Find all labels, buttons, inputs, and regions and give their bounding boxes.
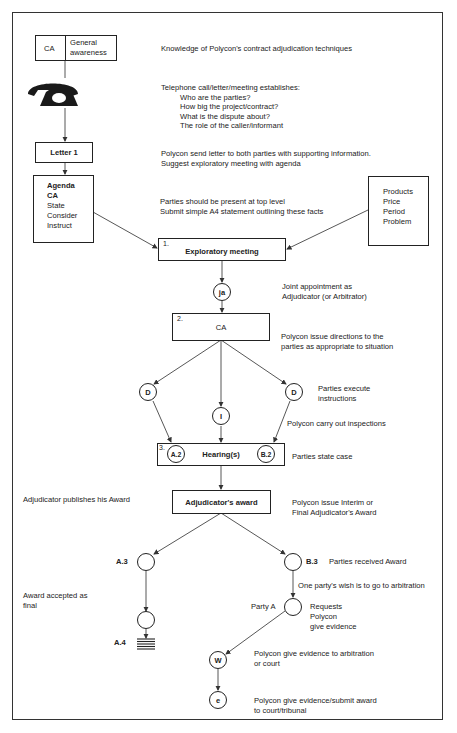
b2-label: B.2	[261, 451, 272, 458]
note-accepted-2: final	[23, 601, 37, 611]
note-interim-2: Final Adjudicator's Award	[292, 508, 376, 518]
telephone-icon	[28, 84, 78, 107]
ca-general-awareness-box: CA General awareness	[35, 35, 117, 61]
awareness-label: awareness	[70, 48, 107, 58]
ja-label: ja	[219, 288, 225, 297]
note-state-case: Parties state case	[292, 452, 352, 462]
note-directions-1: Polycon issue directions to the	[281, 332, 384, 342]
note-publishes: Adjudicator publishes his Award	[23, 495, 130, 505]
telephone-item: The role of the caller/informant	[161, 121, 300, 131]
telephone-item: What is the dispute about?	[161, 112, 300, 122]
step-number: 1.	[163, 240, 169, 247]
agenda-item: State	[47, 201, 65, 211]
exploratory-meeting-box: 1. Exploratory meeting	[158, 238, 286, 261]
end-bars-icon	[137, 639, 155, 649]
letter-1-box: Letter 1	[35, 142, 93, 163]
note-received: Parties received Award	[329, 557, 407, 567]
note-execute-1: Parties execute	[318, 384, 370, 394]
b2-node: B.2	[257, 445, 275, 463]
a3-node	[137, 553, 155, 571]
note-evidence-1: Polycon give evidence to arbitration	[254, 649, 374, 659]
e-label: e	[216, 696, 220, 705]
d-left-node: D	[139, 383, 157, 401]
ca-label: CA	[44, 44, 55, 54]
w-node: W	[209, 651, 227, 669]
agenda-title: Agenda	[47, 181, 75, 191]
note-accepted-1: Award accepted as	[23, 591, 87, 601]
note-parties-1: Parties should be present at top level	[160, 197, 285, 207]
note-joint-1: Joint appointment as	[282, 282, 352, 292]
note-inspections: Polycon carry out inspections	[287, 419, 386, 429]
note-directions-2: parties as appropriate to situation	[281, 342, 393, 352]
step-number: 2.	[177, 315, 183, 322]
note-parties-2: Submit simple A4 statement outlining the…	[160, 207, 323, 217]
e-node: e	[209, 691, 227, 709]
products-item: Products	[383, 187, 413, 197]
agenda-ca: CA	[47, 191, 58, 201]
note-execute-2: instructions	[318, 394, 356, 404]
ca-step-label: CA	[173, 323, 269, 333]
party-a-node	[284, 598, 302, 616]
note-evidence-2: or court	[254, 659, 280, 669]
note-knowledge: Knowledge of Polycon's contract adjudica…	[161, 44, 352, 54]
ja-node: ja	[213, 283, 231, 301]
party-a-label: Party A	[251, 602, 275, 612]
b3-node	[284, 553, 302, 571]
note-joint-2: Adjudicator (or Arbitrator)	[282, 292, 367, 302]
adjudicators-award-label: Adjudicator's award	[173, 498, 270, 508]
a3-label: A.3	[116, 557, 128, 567]
agenda-item: Instruct	[47, 221, 72, 231]
products-box: Products Price Period Problem	[368, 176, 429, 246]
d-label: D	[291, 388, 296, 397]
a-final-node	[137, 611, 155, 629]
d-label: D	[145, 388, 150, 397]
note-telephone: Telephone call/letter/meeting establishe…	[161, 83, 300, 131]
exploratory-meeting-label: Exploratory meeting	[159, 247, 285, 257]
agenda-item: Consider	[47, 211, 77, 221]
note-wish: One party's wish is to go to arbitration	[298, 581, 425, 591]
note-requests-2: Polycon	[310, 612, 337, 622]
d-right-node: D	[285, 383, 303, 401]
a4-label: A.4	[114, 638, 126, 648]
i-label: I	[220, 412, 222, 421]
general-label: General	[70, 38, 97, 48]
hearing-box: 3. A.2 Hearing(s) B.2	[157, 443, 285, 466]
telephone-item: How big the project/contract?	[161, 102, 300, 112]
note-letter-2: Suggest exploratory meeting with agenda	[161, 159, 301, 169]
adjudicators-award-box: Adjudicator's award	[172, 490, 271, 514]
note-submit-2: to court/tribunal	[254, 706, 306, 716]
note-letter-1: Polycon send letter to both parties with…	[161, 149, 371, 159]
i-node: I	[212, 407, 230, 425]
ca-step-box: 2. CA	[172, 313, 270, 341]
products-item: Problem	[383, 217, 411, 227]
note-interim-1: Polycon issue Interim or	[292, 498, 373, 508]
products-item: Period	[383, 207, 405, 217]
products-item: Price	[383, 197, 400, 207]
telephone-heading: Telephone call/letter/meeting establishe…	[161, 83, 300, 92]
note-submit-1: Polycon give evidence/submit award	[254, 696, 377, 706]
w-label: W	[214, 656, 221, 665]
letter-1-label: Letter 1	[36, 148, 92, 158]
telephone-item: Who are the parties?	[161, 93, 300, 103]
b3-label: B.3	[306, 557, 318, 567]
agenda-box: Agenda CA State Consider Instruct	[33, 175, 94, 243]
note-requests-3: give evidence	[310, 622, 356, 632]
note-requests-1: Requests	[310, 602, 342, 612]
